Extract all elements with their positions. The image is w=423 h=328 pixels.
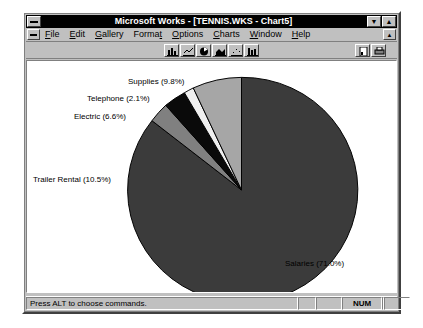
area-chart-icon[interactable]	[212, 44, 227, 57]
restore-icon: ▲	[383, 17, 395, 26]
window-title: Microsoft Works - [TENNIS.WKS - Chart5]	[41, 15, 366, 28]
menu-item-window[interactable]: Window	[245, 28, 287, 41]
window-controls: ▼ ▲	[366, 16, 396, 27]
title-bar: Microsoft Works - [TENNIS.WKS - Chart5] …	[26, 15, 397, 28]
line-chart-icon[interactable]	[180, 44, 195, 57]
restore-button[interactable]: ▲	[382, 16, 396, 27]
menu-item-format[interactable]: Format	[129, 28, 168, 41]
screenshot-root: Microsoft Works - [TENNIS.WKS - Chart5] …	[0, 0, 423, 328]
pie-label-electric: Electric (6.6%)	[74, 112, 126, 121]
bar-chart-icon[interactable]	[164, 44, 179, 57]
menu-item-charts[interactable]: Charts	[208, 28, 245, 41]
application-window-inner: Microsoft Works - [TENNIS.WKS - Chart5] …	[24, 13, 399, 312]
toolbar-right-group	[355, 44, 387, 57]
status-cell-4	[384, 297, 410, 310]
menu-item-gallery[interactable]: Gallery	[90, 28, 129, 41]
minimize-icon: ▼	[368, 17, 380, 26]
pie-label-supplies: Supplies (9.8%)	[128, 77, 184, 86]
menu-item-options[interactable]: Options	[167, 28, 208, 41]
menu-item-help[interactable]: Help	[287, 28, 316, 41]
status-cell-2	[316, 297, 342, 310]
stacked-bar-chart-icon[interactable]	[244, 44, 259, 57]
minimize-button[interactable]: ▼	[367, 16, 381, 27]
status-indicator-num: NUM	[342, 297, 382, 310]
chart-client-area[interactable]: Supplies (9.8%) Telephone (2.1%) Electri…	[26, 60, 397, 293]
menu-item-file[interactable]: File	[40, 28, 65, 41]
document-restore-icon: ▲	[387, 32, 393, 38]
status-bar: Press ALT to choose commands. NUM	[26, 296, 397, 310]
status-message: Press ALT to choose commands.	[26, 297, 298, 310]
pie-label-trailer-rental: Trailer Rental (10.5%)	[33, 175, 111, 184]
menu-bar: File Edit Gallery Format Options Charts …	[26, 28, 397, 42]
print-icon[interactable]	[371, 44, 386, 57]
document-system-menu-icon[interactable]	[27, 29, 40, 40]
new-chart-icon[interactable]	[355, 44, 370, 57]
pie-label-telephone: Telephone (2.1%)	[87, 94, 150, 103]
toolbar-chart-group	[164, 44, 260, 57]
pie-chart-icon[interactable]	[196, 44, 211, 57]
system-menu-icon[interactable]	[27, 16, 41, 27]
application-window: Microsoft Works - [TENNIS.WKS - Chart5] …	[22, 11, 401, 314]
toolbar	[26, 43, 397, 59]
document-restore-button[interactable]: ▲	[383, 29, 396, 40]
menu-item-edit[interactable]: Edit	[65, 28, 91, 41]
pie-label-salaries: Salaries (71.0%)	[285, 259, 344, 268]
xy-scatter-chart-icon[interactable]	[228, 44, 243, 57]
status-cell-1	[298, 297, 316, 310]
